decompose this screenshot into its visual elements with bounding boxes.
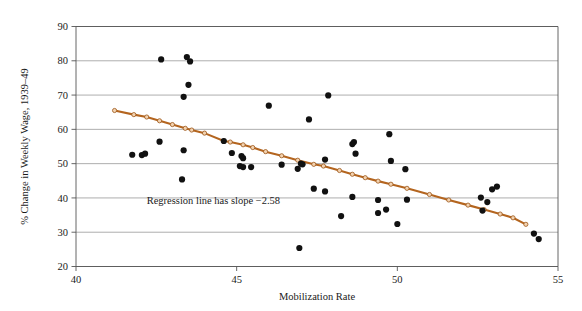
regression-marker	[183, 126, 187, 130]
data-point	[266, 103, 272, 109]
y-tick-label-40: 40	[58, 193, 69, 204]
y-tick-label-20: 20	[58, 261, 69, 272]
data-point	[394, 221, 400, 227]
y-tick-label-80: 80	[58, 55, 69, 66]
regression-marker	[112, 108, 116, 112]
y-tick-label-50: 50	[58, 158, 69, 169]
data-point	[536, 236, 542, 242]
y-axis-title: % Change in Weekly Wage, 1939–49	[19, 68, 30, 225]
data-point	[311, 186, 317, 192]
data-point	[240, 164, 246, 170]
regression-marker	[280, 154, 284, 158]
data-point	[404, 197, 410, 203]
data-point	[240, 155, 246, 161]
regression-marker	[524, 222, 528, 226]
regression-marker	[228, 140, 232, 144]
data-point	[229, 150, 235, 156]
regression-marker	[511, 216, 515, 220]
regression-marker	[427, 192, 431, 196]
data-point	[349, 194, 355, 200]
regression-marker	[337, 168, 341, 172]
regression-marker	[405, 186, 409, 190]
data-point	[156, 139, 162, 145]
data-point	[306, 116, 312, 122]
data-point	[248, 164, 254, 170]
scatter-points-group	[129, 54, 542, 251]
data-point	[386, 131, 392, 137]
regression-marker	[202, 131, 206, 135]
y-axis-ticks: 2030405060708090	[58, 21, 77, 272]
data-point	[338, 213, 344, 219]
data-point	[478, 194, 484, 200]
data-point	[142, 151, 148, 157]
gridlines-group	[76, 27, 558, 267]
regression-marker	[170, 122, 174, 126]
y-tick-label-70: 70	[58, 90, 69, 101]
regression-marker	[157, 119, 161, 123]
data-point	[402, 166, 408, 172]
data-point	[479, 208, 485, 214]
y-tick-label-60: 60	[58, 124, 69, 135]
data-point	[375, 197, 381, 203]
plot-frame	[76, 27, 558, 267]
data-point	[299, 161, 305, 167]
regression-marker	[241, 143, 245, 147]
x-axis-ticks: 40455055	[71, 267, 564, 285]
data-point	[322, 188, 328, 194]
regression-marker	[350, 172, 354, 176]
regression-marker	[498, 212, 502, 216]
chart-canvas: 40455055 2030405060708090 Mobilization R…	[0, 0, 582, 311]
data-point	[531, 230, 537, 236]
data-point	[185, 82, 191, 88]
regression-marker	[321, 164, 325, 168]
regression-marker	[263, 150, 267, 154]
data-point	[484, 199, 490, 205]
x-tick-label-45: 45	[231, 274, 242, 285]
data-point	[187, 58, 193, 64]
y-tick-label-90: 90	[58, 21, 69, 32]
regression-marker	[190, 128, 194, 132]
data-point	[158, 56, 164, 62]
regression-marker	[389, 182, 393, 186]
data-point	[181, 147, 187, 153]
data-point	[129, 152, 135, 158]
regression-marker	[363, 176, 367, 180]
data-point	[383, 206, 389, 212]
data-point	[349, 141, 355, 147]
x-tick-label-40: 40	[71, 274, 82, 285]
data-point	[375, 210, 381, 216]
regression-marker	[132, 113, 136, 117]
data-point	[295, 166, 301, 172]
regression-marker	[376, 179, 380, 183]
data-point	[179, 176, 185, 182]
data-point	[494, 184, 500, 190]
data-point	[221, 138, 227, 144]
data-point	[296, 245, 302, 251]
data-point	[322, 156, 328, 162]
scatter-plot-figure: 40455055 2030405060708090 Mobilization R…	[0, 0, 582, 311]
data-point	[325, 92, 331, 98]
regression-marker	[145, 115, 149, 119]
regression-marker	[312, 162, 316, 166]
regression-marker	[466, 203, 470, 207]
x-axis-title: Mobilization Rate	[279, 291, 355, 302]
data-point	[352, 151, 358, 157]
regression-marker	[251, 145, 255, 149]
regression-marker	[447, 198, 451, 202]
data-point	[388, 158, 394, 164]
data-point	[181, 94, 187, 100]
regression-slope-annotation: Regression line has slope −2.58	[147, 195, 280, 206]
regression-line-group	[112, 108, 528, 226]
regression-line-path	[115, 111, 526, 225]
data-point	[279, 162, 285, 168]
x-tick-label-50: 50	[392, 274, 403, 285]
x-tick-label-55: 55	[553, 274, 564, 285]
y-tick-label-30: 30	[58, 227, 69, 238]
